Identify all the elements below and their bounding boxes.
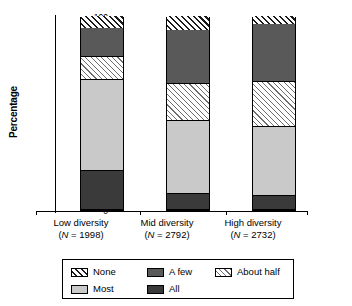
y-tick-mark xyxy=(108,211,112,212)
x-tick-mark xyxy=(307,211,308,215)
legend-swatch-none xyxy=(71,268,88,277)
bar-segment-a-few xyxy=(167,30,209,84)
stacked-bar-chart: Percentage 1009080706050403020100 Low di… xyxy=(0,0,352,306)
bar-high-diversity xyxy=(252,17,296,211)
bar-segment-most xyxy=(167,121,209,195)
legend-row: NoneA fewAbout half xyxy=(63,264,295,280)
y-axis-title-text: Percentage xyxy=(8,52,19,172)
bar-segment-a-few xyxy=(81,28,123,57)
chart-legend: NoneA fewAbout halfMostAll xyxy=(62,259,294,299)
y-axis-title: Percentage xyxy=(8,0,19,52)
bar-segment-most xyxy=(81,80,123,171)
legend-item-a-few[interactable]: A few xyxy=(147,264,192,280)
legend-item-most[interactable]: Most xyxy=(71,281,114,297)
bar-segment-all xyxy=(81,171,123,210)
x-tick-mark xyxy=(226,211,227,215)
x-axis-category-labels: Low diversity(N = 1998)Mid diversity(N =… xyxy=(36,217,308,249)
legend-label: A few xyxy=(169,267,192,277)
bar-mid-diversity xyxy=(166,17,210,211)
x-tick-mark xyxy=(36,211,37,215)
legend-label: All xyxy=(169,284,180,294)
legend-label: Most xyxy=(93,284,114,294)
bar-segment-a-few xyxy=(253,24,295,82)
legend-item-about-half[interactable]: About half xyxy=(215,264,280,280)
legend-swatch-most xyxy=(71,285,88,294)
bar-low-diversity xyxy=(80,17,124,211)
legend-swatch-about-half xyxy=(215,268,232,277)
legend-label: None xyxy=(93,267,116,277)
bar-segment-most xyxy=(253,127,295,197)
legend-swatch-all xyxy=(147,285,164,294)
bar-segment-none xyxy=(167,16,209,30)
x-category-name: High diversity xyxy=(198,217,308,229)
x-category-label: High diversity(N = 2732) xyxy=(198,217,308,241)
bar-segment-none xyxy=(81,16,123,28)
x-tick-mark xyxy=(140,211,141,215)
bar-segment-about-half xyxy=(81,57,123,80)
legend-label: About half xyxy=(237,267,280,277)
bar-segment-about-half xyxy=(253,82,295,127)
bar-segment-about-half xyxy=(167,84,209,121)
bar-segment-all xyxy=(167,194,209,210)
legend-item-none[interactable]: None xyxy=(71,264,116,280)
legend-swatch-a-few xyxy=(147,268,164,277)
bar-segment-all xyxy=(253,196,295,210)
legend-row: MostAll xyxy=(63,281,295,297)
legend-item-all[interactable]: All xyxy=(147,281,180,297)
plot-area: 1009080706050403020100 xyxy=(56,17,304,211)
bar-segment-none xyxy=(253,16,295,24)
x-category-sample-size: (N = 2732) xyxy=(198,229,308,241)
